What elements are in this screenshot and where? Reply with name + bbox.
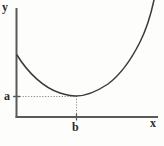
- x-axis-label: x: [150, 117, 156, 129]
- y-value-label-a: a: [4, 90, 10, 102]
- plot-canvas: [0, 0, 164, 146]
- function-curve: [17, 0, 154, 96]
- y-axis-label: y: [2, 1, 8, 13]
- math-plot-figure: y x a b: [0, 0, 164, 146]
- x-value-label-b: b: [72, 121, 79, 133]
